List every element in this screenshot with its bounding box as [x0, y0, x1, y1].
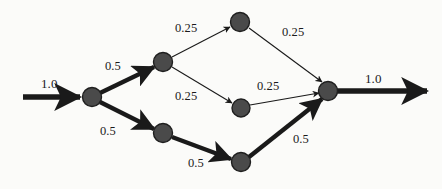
middle-node: [232, 99, 250, 117]
edge-label-lower-to-bottom: 0.5: [188, 157, 204, 170]
edge-label-source-to-upper: 0.5: [105, 60, 121, 73]
lower-branch-node: [154, 124, 173, 143]
edge-label-upper-to-middle: 0.25: [175, 90, 197, 103]
diagram-canvas: 1.0 0.5 0.5 0.25 0.25 0.25 0.25 0.5 0.5 …: [0, 0, 442, 189]
source-node: [83, 88, 102, 107]
edge-label-bottom-to-sink: 0.5: [293, 133, 309, 146]
edge-middle-to-sink: [250, 93, 319, 105]
edge-label-middle-to-sink: 0.25: [257, 80, 279, 93]
edge-label-source-to-lower: 0.5: [100, 125, 116, 138]
edge-label-input: 1.0: [41, 77, 58, 90]
edge-label-output: 1.0: [365, 72, 382, 85]
edge-label-top-to-sink: 0.25: [282, 26, 304, 39]
flow-network-graphic: [0, 0, 442, 189]
top-node: [231, 13, 250, 32]
edge-label-upper-to-top: 0.25: [175, 22, 197, 35]
edge-bottom-to-sink: [249, 99, 322, 157]
sink-node: [319, 82, 338, 101]
upper-branch-node: [154, 53, 173, 72]
bottom-node: [232, 153, 251, 172]
